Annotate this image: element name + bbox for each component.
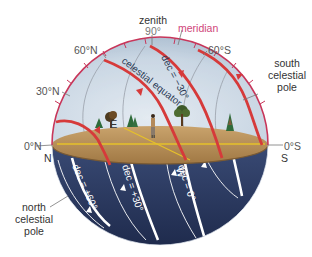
lat-0n-label: 0°N — [24, 140, 42, 152]
north-pole-line-2: celestial — [10, 213, 58, 225]
celestial-sphere-diagram: celestial equator dec = −30° dec = +60° … — [0, 0, 312, 257]
east-label: E — [110, 118, 117, 130]
meridian-label: meridian — [178, 22, 218, 34]
lat-30n-label: 30°N — [36, 85, 59, 97]
south-direction-label: S — [281, 152, 288, 164]
lat-0s-label: 0°S — [284, 140, 301, 152]
lat-60n-label: 60°N — [74, 44, 97, 56]
south-pole-line-2: celestial — [262, 69, 312, 81]
lat-60s-label: 60°S — [208, 44, 231, 56]
south-pole-line-1: south — [262, 57, 312, 69]
south-pole-line-3: pole — [262, 81, 312, 93]
north-direction-label: N — [44, 152, 52, 164]
zenith-altitude-label: 90° — [141, 25, 165, 37]
north-pole-line-3: pole — [10, 225, 58, 237]
north-pole-line-1: north — [10, 201, 58, 213]
north-celestial-pole-label: north celestial pole — [10, 201, 58, 237]
south-celestial-pole-label: south celestial pole — [262, 57, 312, 93]
